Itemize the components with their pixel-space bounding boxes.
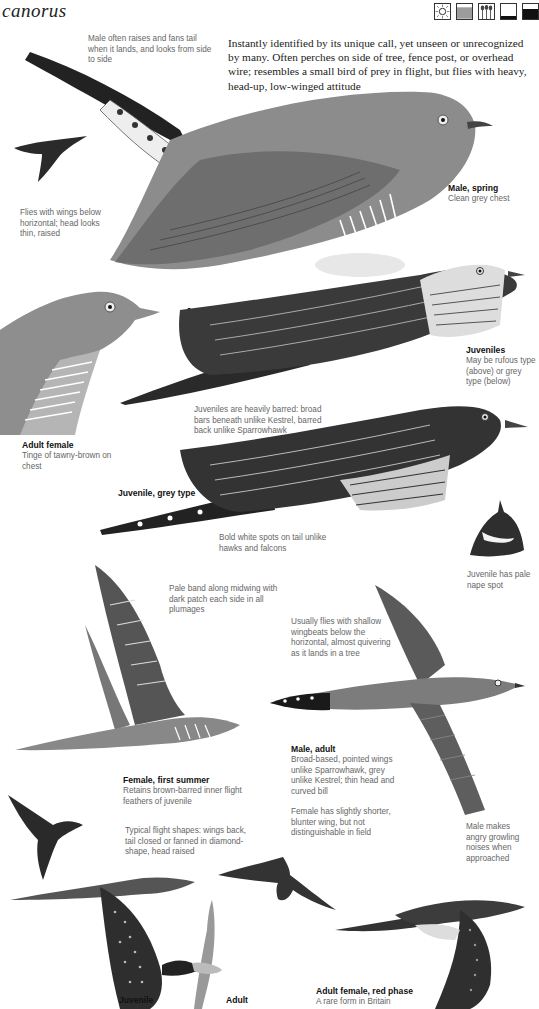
caption-desc: May be rufous type (above) or grey type … — [466, 356, 536, 388]
note-flight-shapes: Typical flight shapes: wings back, tail … — [125, 826, 255, 858]
caption-title: Female, first summer — [123, 775, 253, 786]
caption-desc: Broad-based, pointed wings unlike Sparro… — [291, 755, 401, 797]
illustration-juvenile-nape — [468, 500, 528, 560]
caption-male-spring: Male, spring Clean grey chest — [448, 183, 509, 205]
habitat-icons — [434, 3, 539, 20]
illustration-juvenile-grey — [100, 400, 530, 550]
note-white-spots: Bold white spots on tail unlike hawks an… — [219, 533, 329, 554]
caption-juveniles: Juveniles May be rufous type (above) or … — [466, 345, 536, 388]
caption-female-first-summer: Female, first summer Retains brown-barre… — [123, 775, 253, 807]
caption-male-adult: Male, adult Broad-based, pointed wings u… — [291, 744, 401, 797]
caption-title: Adult female, red phase — [316, 986, 456, 997]
trees-icon — [478, 3, 495, 20]
caption-desc: Clean grey chest — [448, 194, 509, 205]
caption-desc: A rare form in Britain — [316, 997, 456, 1008]
illustration-male-spring — [20, 50, 500, 280]
caption-juvenile-grey: Juvenile, grey type — [118, 488, 195, 499]
caption-adult-flight: Adult — [226, 995, 248, 1006]
reeds-icon — [456, 3, 473, 20]
caption-red-phase: Adult female, red phase A rare form in B… — [316, 986, 456, 1008]
note-female-wing: Female has slightly shorter, blunter win… — [291, 807, 401, 839]
sun-heath-icon — [434, 3, 451, 20]
flight-silhouette-left — [8, 790, 83, 880]
caption-juvenile-flight: Juvenile — [119, 995, 153, 1006]
deep-water-icon — [522, 3, 539, 20]
illustration-female-first-summer — [15, 565, 245, 770]
caption-title: Juveniles — [466, 345, 536, 356]
caption-title: Male, adult — [291, 744, 401, 755]
caption-desc: Retains brown-barred inner flight feathe… — [123, 786, 253, 807]
note-flies-wings: Flies with wings below horizontal; head … — [20, 208, 110, 240]
species-title: canorus — [2, 0, 67, 22]
caption-title: Male, spring — [448, 183, 509, 194]
shallow-water-icon — [500, 3, 517, 20]
illustration-adult-flight — [162, 895, 237, 1009]
note-growling: Male makes angry growling noises when ap… — [466, 822, 532, 864]
